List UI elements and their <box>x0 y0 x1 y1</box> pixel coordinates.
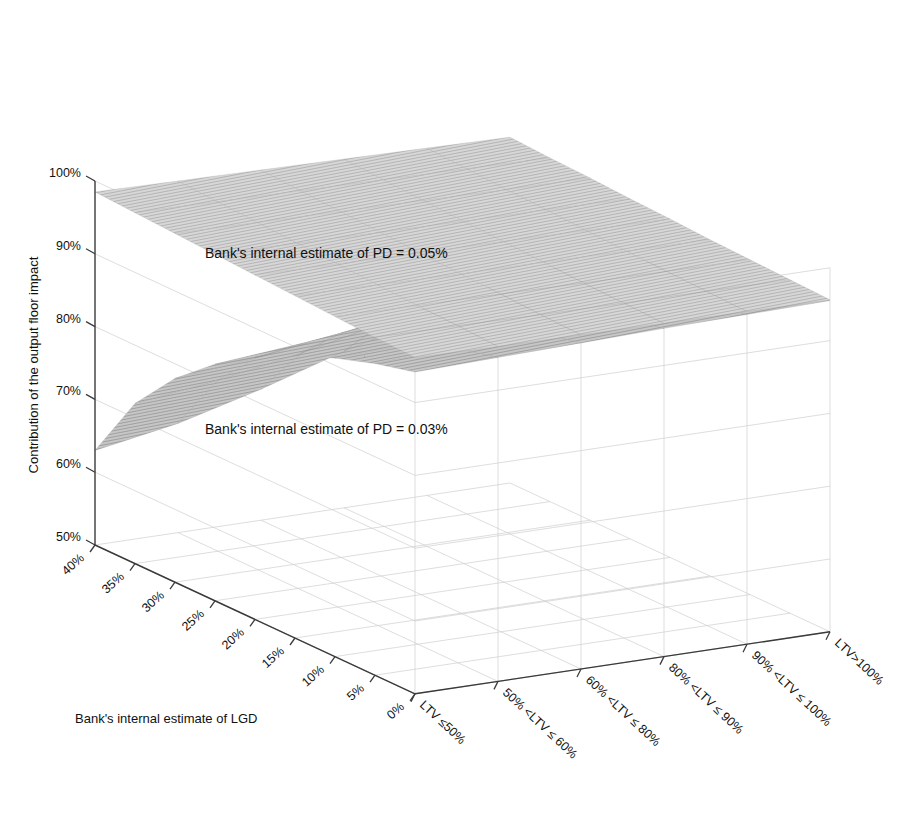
x-tick-20: 20% <box>219 625 247 652</box>
annotation-pd-005: Bank's internal estimate of PD = 0.05% <box>205 245 448 261</box>
z-axis-title: Contribution of the output floor impact <box>26 256 41 473</box>
z-tick-60: 60% <box>56 457 81 471</box>
z-tick-50: 50% <box>56 530 81 544</box>
y-tick-4: 90% <LTV ≤ 100% <box>749 648 834 729</box>
x-tick-30: 30% <box>139 588 167 615</box>
x-tick-35: 35% <box>99 569 127 596</box>
x-tick-25: 25% <box>179 607 207 634</box>
y-tick-1: 50% <LTV ≤ 60% <box>500 685 580 761</box>
z-tick-100: 100% <box>49 166 81 180</box>
y-tick-0: LTV ≤50% <box>417 698 468 747</box>
x-tick-0: 0% <box>384 700 407 723</box>
x-tick-5: 5% <box>344 681 367 704</box>
x-axis-title: Bank's internal estimate of LGD <box>75 711 257 726</box>
x-tick-15: 15% <box>259 644 287 671</box>
surface-meshes <box>95 137 830 450</box>
x-tick-10: 10% <box>299 662 327 689</box>
z-tick-90: 90% <box>56 239 81 253</box>
z-tick-80: 80% <box>56 312 81 326</box>
surface-plot-3d: 50%60%70%80%90%100%40%35%30%25%20%15%10%… <box>0 0 904 818</box>
x-tick-40: 40% <box>59 551 87 578</box>
z-tick-70: 70% <box>56 384 81 398</box>
y-tick-2: 60% <LTV ≤ 80% <box>583 673 663 749</box>
figure-canvas: 50%60%70%80%90%100%40%35%30%25%20%15%10%… <box>0 0 904 818</box>
floor-grid <box>95 483 830 694</box>
annotation-pd-003: Bank's internal estimate of PD = 0.03% <box>205 421 448 437</box>
y-tick-5: LTV>100% <box>832 636 886 688</box>
y-tick-3: 80% <LTV ≤ 90% <box>666 661 746 737</box>
